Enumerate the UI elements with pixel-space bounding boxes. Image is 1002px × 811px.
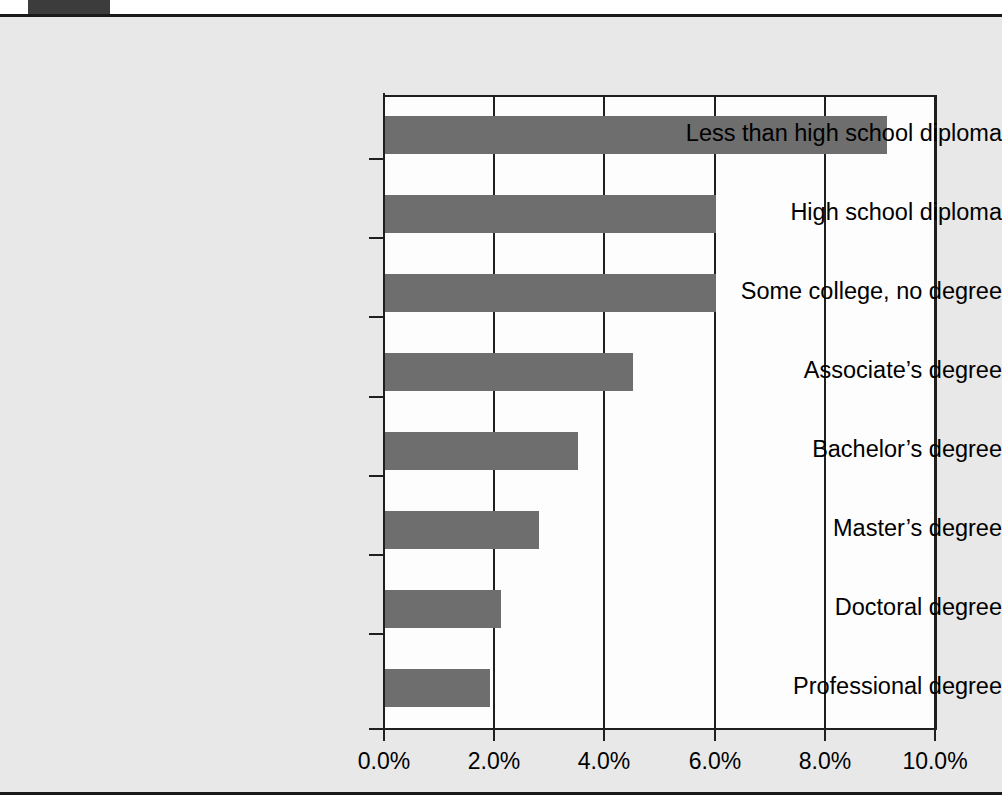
gridline-2pct bbox=[493, 95, 495, 728]
x-tick-0 bbox=[383, 728, 385, 741]
bar-doctoral-degree bbox=[385, 590, 501, 628]
footer-divider-rule bbox=[0, 792, 1002, 795]
bar-professional-degree bbox=[385, 669, 490, 707]
x-tick-label-0: 0.0% bbox=[329, 748, 439, 775]
figure-panel: 0.0% 2.0% 4.0% 6.0% 8.0% 10.0% Less than… bbox=[0, 17, 1002, 792]
gridline-6pct bbox=[714, 95, 716, 728]
x-tick-4 bbox=[824, 728, 826, 741]
x-tick-label-5: 10.0% bbox=[880, 748, 990, 775]
category-label-0: Less than high school diploma bbox=[642, 120, 1002, 147]
category-label-1: High school diploma bbox=[642, 199, 1002, 226]
x-tick-3 bbox=[714, 728, 716, 741]
x-tick-label-4: 8.0% bbox=[770, 748, 880, 775]
x-axis-line bbox=[369, 728, 937, 730]
y-tick-boundary-4 bbox=[369, 396, 384, 398]
category-label-7: Professional degree bbox=[642, 673, 1002, 700]
x-tick-1 bbox=[493, 728, 495, 741]
bar-bachelors-degree bbox=[385, 432, 578, 470]
y-tick-boundary-5 bbox=[369, 475, 384, 477]
category-label-3: Associate’s degree bbox=[642, 357, 1002, 384]
y-tick-boundary-6 bbox=[369, 554, 384, 556]
category-label-5: Master’s degree bbox=[642, 515, 1002, 542]
category-label-2: Some college, no degree bbox=[642, 278, 1002, 305]
x-tick-label-1: 2.0% bbox=[439, 748, 549, 775]
x-tick-label-3: 6.0% bbox=[660, 748, 770, 775]
chart-page: 0.0% 2.0% 4.0% 6.0% 8.0% 10.0% Less than… bbox=[0, 0, 1002, 811]
header-tab-block bbox=[28, 0, 110, 14]
category-label-4: Bachelor’s degree bbox=[642, 436, 1002, 463]
category-label-6: Doctoral degree bbox=[642, 594, 1002, 621]
y-tick-boundary-3 bbox=[369, 316, 384, 318]
x-tick-label-2: 4.0% bbox=[549, 748, 659, 775]
plot-area bbox=[383, 95, 937, 730]
x-tick-5 bbox=[934, 728, 936, 741]
x-tick-2 bbox=[603, 728, 605, 741]
bar-associates-degree bbox=[385, 353, 633, 391]
gridline-8pct bbox=[824, 95, 826, 728]
bar-masters-degree bbox=[385, 511, 539, 549]
y-tick-boundary-1 bbox=[369, 158, 384, 160]
y-tick-boundary-2 bbox=[369, 237, 384, 239]
y-tick-boundary-7 bbox=[369, 633, 384, 635]
gridline-10pct bbox=[934, 95, 936, 728]
gridline-4pct bbox=[603, 95, 605, 728]
